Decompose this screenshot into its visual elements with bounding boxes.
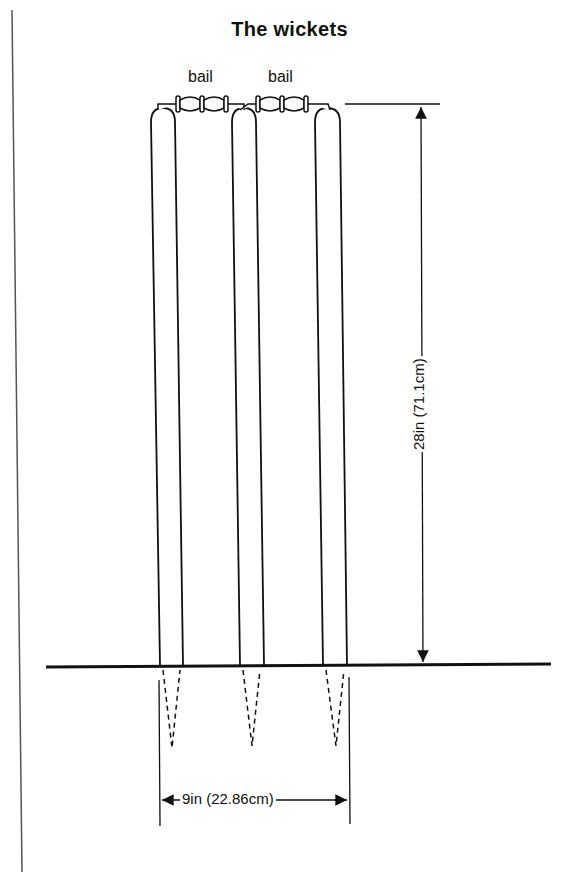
- bail-label-right: bail: [268, 68, 293, 86]
- stump-3: [315, 108, 347, 665]
- ground-line: [46, 664, 551, 667]
- left-vertical-rule: [12, 10, 22, 872]
- stump-2: [232, 108, 264, 665]
- bail-label-left: bail: [188, 68, 213, 86]
- width-extension-right: [349, 677, 350, 824]
- wicket-diagram: [0, 0, 579, 877]
- diagram-title: The wickets: [0, 18, 579, 41]
- bail-right: [240, 96, 330, 112]
- height-dimension-label: 28in (71.1cm): [410, 356, 427, 452]
- stump-1: [151, 108, 183, 665]
- buried-spikes: [163, 670, 344, 748]
- width-extension-left: [159, 680, 160, 826]
- width-dimension-label: 9in (22.86cm): [180, 790, 276, 807]
